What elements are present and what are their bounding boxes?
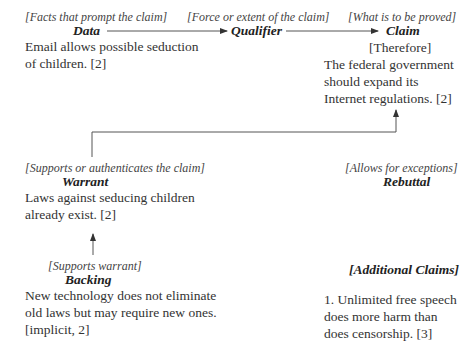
backing-text-1: New technology does not eliminate bbox=[25, 287, 216, 304]
additional-claims-text-1: 1. Unlimited free speech bbox=[324, 291, 457, 308]
warrant-text-1: Laws against seducing children bbox=[25, 189, 195, 206]
data-text-1: Email allows possible seduction bbox=[25, 38, 199, 55]
rebuttal-heading: Rebuttal bbox=[383, 174, 430, 190]
data-text-2: of children. [2] bbox=[25, 55, 106, 72]
arrow-warrant-to-claim bbox=[92, 110, 396, 157]
backing-heading: Backing bbox=[65, 272, 112, 288]
warrant-caption: [Supports or authenticates the claim] bbox=[25, 161, 205, 176]
additional-claims-heading: [Additional Claims] bbox=[349, 262, 459, 278]
claim-subheading: [Therefore] bbox=[369, 39, 431, 56]
claim-text-3: Internet regulations. [2] bbox=[324, 90, 452, 107]
warrant-text-2: already exist. [2] bbox=[25, 206, 116, 223]
additional-claims-text-2: does more harm than bbox=[324, 308, 438, 325]
backing-text-3: [implicit, 2] bbox=[25, 321, 90, 338]
data-heading: Data bbox=[73, 23, 100, 39]
backing-text-2: old laws but may require new ones. bbox=[25, 304, 217, 321]
claim-heading: Claim bbox=[386, 23, 420, 39]
claim-text-1: The federal government bbox=[324, 56, 454, 73]
claim-text-2: should expand its bbox=[324, 73, 419, 90]
qualifier-heading: Qualifier bbox=[231, 23, 282, 39]
warrant-heading: Warrant bbox=[62, 174, 108, 190]
additional-claims-text-3: does censorship. [3] bbox=[324, 325, 432, 341]
